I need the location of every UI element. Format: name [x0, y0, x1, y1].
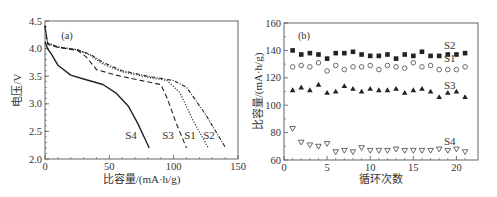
series-label-s4: S4: [444, 135, 456, 147]
y-tick-label: 80: [271, 127, 282, 138]
y-tick-label: 140: [265, 45, 281, 56]
series-markers-s3: [290, 82, 468, 99]
x-tick-label: 5: [324, 162, 329, 173]
y-tick-label: 120: [265, 72, 281, 83]
series-label-s2: S2: [444, 39, 456, 51]
series-label-s2: S2: [203, 129, 215, 141]
series-label-s4: S4: [125, 129, 137, 141]
y-tick-label: 3.5: [29, 71, 42, 82]
y-axis-label: 比容量/(mA·h/g): [251, 52, 265, 130]
series-markers-s4: [290, 126, 468, 154]
x-axis-label: 循环次数: [359, 172, 403, 185]
x-tick-label: 15: [408, 162, 419, 173]
series-label-s3: S3: [162, 129, 174, 141]
x-tick-label: 10: [365, 162, 376, 173]
x-tick-label: 150: [230, 161, 246, 172]
x-tick-label: 50: [104, 161, 115, 172]
x-tick-label: 0: [281, 162, 286, 173]
panel-label-b: (b): [298, 30, 311, 42]
series-label-s1: S1: [184, 129, 196, 141]
chart-canvas: 2.02.53.03.54.04.5050100150比容量/(mA·h/g)电…: [0, 0, 497, 197]
x-tick-label: 20: [451, 162, 462, 173]
series-label-s1: S1: [444, 52, 456, 64]
y-tick-label: 2.0: [29, 154, 42, 165]
y-tick-label: 4.0: [29, 43, 42, 54]
x-axis-label: 比容量/(mA·h/g): [103, 172, 181, 186]
y-tick-label: 160: [265, 18, 281, 29]
x-tick-label: 0: [42, 161, 47, 172]
series-markers-s1: [290, 60, 467, 73]
x-tick-label: 100: [166, 161, 182, 172]
y-tick-label: 100: [265, 100, 281, 111]
y-tick-label: 4.5: [29, 16, 42, 27]
y-tick-label: 2.5: [29, 126, 42, 137]
series-markers-s2: [290, 48, 467, 61]
y-tick-label: 3.0: [29, 98, 42, 109]
series-label-s3: S3: [444, 79, 456, 91]
y-tick-label: 60: [271, 155, 282, 166]
panel-label-a: (a): [61, 30, 73, 42]
y-axis-label: 电压/V: [11, 73, 23, 106]
